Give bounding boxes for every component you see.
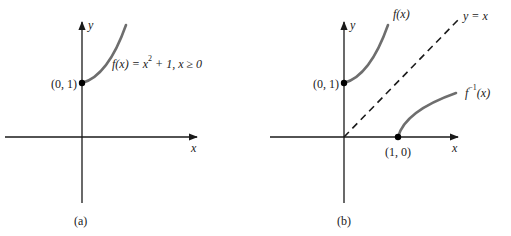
point-0-1 bbox=[79, 80, 85, 86]
point-0-1 bbox=[341, 80, 347, 86]
panel-a: y x (0, 1) f(x) = x2 + 1, x ≥ 0 (a) bbox=[5, 18, 202, 228]
caption-a: (a) bbox=[74, 214, 87, 228]
finv-exp: −1 bbox=[468, 83, 477, 92]
y-axis-label: y bbox=[87, 18, 94, 32]
x-axis-label: x bbox=[451, 141, 458, 155]
curve-f bbox=[344, 25, 388, 83]
y-axis-label: y bbox=[349, 18, 356, 32]
point-1-0 bbox=[395, 134, 401, 140]
finv-arg: (x) bbox=[477, 86, 490, 100]
curve-f-inverse-label: f−1(x) bbox=[465, 83, 490, 100]
point-1-0-label: (1, 0) bbox=[385, 145, 411, 159]
panel-b: y x y = x f(x) f−1(x) (0, 1) (1, 0) (b) bbox=[270, 7, 490, 228]
identity-line-dashed bbox=[344, 20, 458, 137]
identity-line-label: y = x bbox=[462, 9, 488, 23]
caption-b: (b) bbox=[337, 214, 351, 228]
point-0-1-label: (0, 1) bbox=[51, 77, 77, 91]
x-axis-label: x bbox=[190, 141, 197, 155]
curve-f-inverse bbox=[398, 93, 456, 137]
curve-f-label-prefix: f(x) = x bbox=[112, 57, 149, 71]
curve-f bbox=[82, 25, 126, 83]
curve-f-label: f(x) bbox=[393, 7, 410, 21]
curve-f-label: f(x) = x2 + 1, x ≥ 0 bbox=[112, 54, 202, 71]
figure-canvas: y x (0, 1) f(x) = x2 + 1, x ≥ 0 (a) y x … bbox=[0, 0, 511, 236]
curve-f-label-suffix: + 1, x ≥ 0 bbox=[152, 57, 202, 71]
point-0-1-label: (0, 1) bbox=[313, 77, 339, 91]
